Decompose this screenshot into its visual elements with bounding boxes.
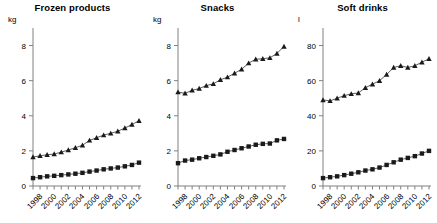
y-tick-label: 40	[290, 111, 316, 120]
data-point-marker	[197, 156, 201, 160]
data-point-marker	[321, 176, 325, 180]
y-tick-label: 80	[290, 41, 316, 50]
data-point-marker	[399, 157, 403, 161]
data-point-marker	[363, 85, 368, 90]
data-point-marker	[115, 129, 120, 134]
data-point-marker	[73, 172, 77, 176]
chart-panel: Snackskg02468199820002002200420062008201…	[145, 0, 290, 223]
data-point-marker	[129, 122, 134, 127]
chart-panel: Soft drinksl0204060801998200020022004200…	[290, 0, 435, 223]
data-point-marker	[246, 144, 250, 148]
data-point-marker	[246, 60, 251, 65]
data-point-marker	[239, 146, 243, 150]
data-point-marker	[363, 168, 367, 172]
data-point-marker	[232, 148, 236, 152]
data-point-marker	[427, 149, 431, 153]
data-point-marker	[275, 138, 279, 142]
data-point-marker	[328, 175, 332, 179]
data-point-marker	[225, 74, 230, 79]
y-tick-label: 2	[0, 146, 26, 155]
data-point-marker	[254, 143, 258, 147]
data-point-marker	[398, 63, 403, 68]
data-point-marker	[413, 154, 417, 158]
y-tick-label: 4	[145, 111, 171, 120]
data-point-marker	[320, 97, 325, 102]
data-point-marker	[130, 163, 134, 167]
data-point-marker	[136, 118, 141, 123]
data-point-marker	[176, 161, 180, 165]
data-point-marker	[211, 81, 216, 86]
data-point-marker	[384, 163, 388, 167]
series-line	[323, 59, 429, 101]
data-point-marker	[419, 60, 424, 65]
data-point-marker	[94, 168, 98, 172]
data-point-marker	[137, 160, 141, 164]
y-tick-label: 0	[145, 182, 171, 191]
data-point-marker	[38, 175, 42, 179]
data-point-marker	[335, 174, 339, 178]
data-point-marker	[261, 142, 265, 146]
data-point-marker	[420, 151, 424, 155]
data-point-marker	[370, 81, 375, 86]
data-point-marker	[267, 55, 272, 60]
y-tick-label: 2	[145, 146, 171, 155]
data-point-marker	[204, 155, 208, 159]
data-point-marker	[377, 165, 381, 169]
data-point-marker	[406, 156, 410, 160]
y-tick-label: 8	[0, 41, 26, 50]
data-point-marker	[101, 167, 105, 171]
data-point-marker	[190, 157, 194, 161]
chart-panel: Frozen productskg02468199820002002200420…	[0, 0, 145, 223]
series-line	[178, 46, 284, 93]
y-tick-label: 6	[145, 76, 171, 85]
data-point-marker	[268, 141, 272, 145]
data-point-marker	[356, 170, 360, 174]
data-point-marker	[52, 174, 56, 178]
y-tick-label: 60	[290, 76, 316, 85]
data-point-marker	[122, 125, 127, 130]
y-tick-label: 4	[0, 111, 26, 120]
data-point-marker	[45, 174, 49, 178]
data-point-marker	[370, 167, 374, 171]
data-point-marker	[342, 173, 346, 177]
data-point-marker	[211, 154, 215, 158]
y-tick-label: 6	[0, 76, 26, 85]
y-tick-label: 20	[290, 146, 316, 155]
data-point-marker	[123, 164, 127, 168]
series-line	[33, 121, 139, 157]
data-point-marker	[218, 152, 222, 156]
data-point-marker	[87, 169, 91, 173]
data-point-marker	[175, 89, 180, 94]
data-point-marker	[232, 71, 237, 76]
data-point-marker	[66, 172, 70, 176]
data-point-marker	[109, 166, 113, 170]
data-point-marker	[80, 171, 84, 175]
data-point-marker	[80, 143, 85, 148]
data-point-marker	[391, 160, 395, 164]
multi-panel-line-chart: Frozen productskg02468199820002002200420…	[0, 0, 437, 223]
data-point-marker	[225, 150, 229, 154]
data-point-marker	[59, 173, 63, 177]
data-point-marker	[426, 56, 431, 61]
data-point-marker	[197, 86, 202, 91]
y-tick-label: 8	[145, 41, 171, 50]
data-point-marker	[282, 137, 286, 141]
data-point-marker	[412, 63, 417, 68]
data-point-marker	[31, 176, 35, 180]
y-tick-label: 0	[290, 182, 316, 191]
data-point-marker	[281, 44, 286, 49]
data-point-marker	[116, 165, 120, 169]
data-point-marker	[183, 158, 187, 162]
data-point-marker	[349, 172, 353, 176]
y-tick-label: 0	[0, 182, 26, 191]
